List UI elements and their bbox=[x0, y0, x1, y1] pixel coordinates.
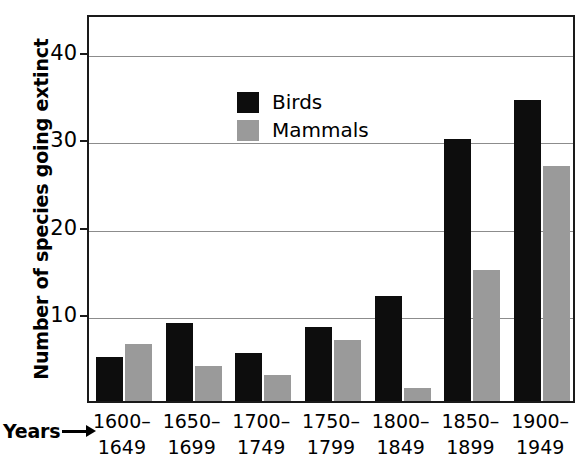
bar-group-1600–1649 bbox=[96, 17, 152, 401]
legend-swatch-birds-icon bbox=[237, 92, 259, 113]
legend-swatch-mammals-icon bbox=[237, 120, 259, 141]
x-tick-label-line1: 1600– bbox=[87, 408, 157, 434]
bar-birds-1750–1799 bbox=[305, 327, 332, 401]
plot-area: Birds Mammals bbox=[87, 15, 575, 403]
legend-label-birds: Birds bbox=[272, 91, 322, 113]
x-tick-label-1850–1899: 1850–1899 bbox=[436, 408, 506, 460]
bar-mammals-1650–1699 bbox=[195, 366, 222, 401]
x-tick-labels: 1600–16491650–16991700–17491750–17991800… bbox=[87, 408, 575, 468]
bar-mammals-1700–1749 bbox=[264, 375, 291, 401]
bar-mammals-1600–1649 bbox=[125, 344, 152, 401]
bar-birds-1800–1849 bbox=[375, 296, 402, 401]
y-tick-label-40: 40 bbox=[33, 42, 77, 64]
y-tick-label-20: 20 bbox=[33, 217, 77, 239]
x-tick-label-1650–1699: 1650–1699 bbox=[157, 408, 227, 460]
bar-group-1900–1949 bbox=[514, 17, 570, 401]
y-axis-title: Number of species going extinct bbox=[28, 14, 54, 404]
bar-birds-1900–1949 bbox=[514, 100, 541, 401]
x-tick-label-1600–1649: 1600–1649 bbox=[87, 408, 157, 460]
legend-item-birds: Birds bbox=[237, 89, 369, 115]
bar-birds-1600–1649 bbox=[96, 357, 123, 401]
x-tick-label-line2: 1799 bbox=[296, 434, 366, 460]
x-tick-label-1800–1849: 1800–1849 bbox=[366, 408, 436, 460]
bar-group-1800–1849 bbox=[375, 17, 431, 401]
bar-mammals-1900–1949 bbox=[543, 166, 570, 401]
y-tick-label-30: 30 bbox=[33, 129, 77, 151]
bar-birds-1850–1899 bbox=[444, 139, 471, 401]
x-tick-label-line1: 1850– bbox=[436, 408, 506, 434]
x-tick-label-line2: 1949 bbox=[505, 434, 575, 460]
y-tick-mark-20 bbox=[80, 228, 87, 230]
bar-group-1750–1799 bbox=[305, 17, 361, 401]
x-tick-label-1700–1749: 1700–1749 bbox=[226, 408, 296, 460]
bar-birds-1650–1699 bbox=[166, 323, 193, 401]
legend-label-mammals: Mammals bbox=[272, 119, 369, 141]
bar-chart-figure: Number of species going extinct 40 30 20… bbox=[0, 0, 585, 472]
x-tick-label-1900–1949: 1900–1949 bbox=[505, 408, 575, 460]
bar-group-1700–1749 bbox=[235, 17, 291, 401]
bar-group-1650–1699 bbox=[166, 17, 222, 401]
bar-mammals-1800–1849 bbox=[404, 388, 431, 401]
bar-mammals-1850–1899 bbox=[473, 270, 500, 401]
x-tick-label-line1: 1800– bbox=[366, 408, 436, 434]
y-tick-mark-30 bbox=[80, 140, 87, 142]
bar-birds-1700–1749 bbox=[235, 353, 262, 401]
x-tick-label-line2: 1649 bbox=[87, 434, 157, 460]
x-tick-label-line2: 1899 bbox=[436, 434, 506, 460]
x-tick-label-line2: 1749 bbox=[226, 434, 296, 460]
bar-group-1850–1899 bbox=[444, 17, 500, 401]
x-tick-label-line2: 1699 bbox=[157, 434, 227, 460]
x-tick-label-line1: 1650– bbox=[157, 408, 227, 434]
y-tick-mark-40 bbox=[80, 53, 87, 55]
x-axis-title: Years bbox=[3, 420, 60, 442]
x-tick-label-1750–1799: 1750–1799 bbox=[296, 408, 366, 460]
legend-item-mammals: Mammals bbox=[237, 117, 369, 143]
x-tick-label-line1: 1750– bbox=[296, 408, 366, 434]
x-axis-title-group: Years bbox=[3, 418, 96, 444]
y-tick-mark-10 bbox=[80, 315, 87, 317]
x-tick-label-line1: 1900– bbox=[505, 408, 575, 434]
x-tick-label-line1: 1700– bbox=[226, 408, 296, 434]
bar-mammals-1750–1799 bbox=[334, 340, 361, 401]
x-tick-label-line2: 1849 bbox=[366, 434, 436, 460]
legend: Birds Mammals bbox=[237, 89, 369, 145]
y-tick-label-10: 10 bbox=[33, 304, 77, 326]
